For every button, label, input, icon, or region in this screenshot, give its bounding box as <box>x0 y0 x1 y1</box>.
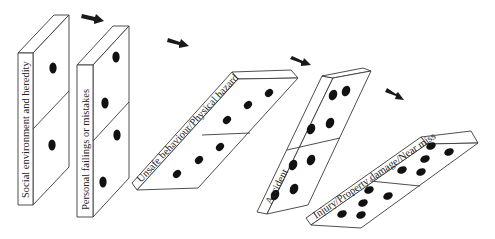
domino-1: Social environment and heredity <box>18 15 69 205</box>
arrow-right-icon <box>290 56 311 66</box>
domino-3-top-face <box>232 70 298 79</box>
domino-2-label: Personal failings or mistakes <box>80 89 91 210</box>
arrow-right-icon <box>385 88 404 100</box>
arrow-right-icon <box>167 38 189 48</box>
arrow-right-icon <box>81 14 104 24</box>
domino-2: Personal failings or mistakes <box>77 26 129 217</box>
domino-diagram: Social environment and heredity Personal… <box>0 0 495 239</box>
pip <box>112 52 119 63</box>
domino-1-label: Social environment and heredity <box>20 60 31 198</box>
domino-3: Unsafe behaviour/Physical hazard <box>132 70 298 190</box>
pip <box>49 63 56 74</box>
pip <box>48 140 55 151</box>
pip <box>101 98 108 109</box>
pip <box>113 130 120 141</box>
pip <box>99 177 106 188</box>
